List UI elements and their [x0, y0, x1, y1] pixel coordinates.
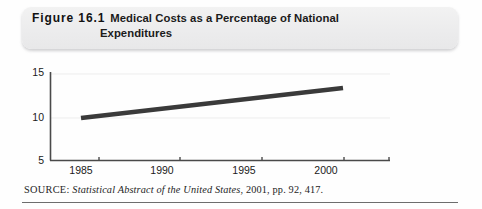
figure-caption-line-2: Expenditures [32, 26, 432, 41]
y-tick-label-10: 10 [20, 111, 44, 123]
source-label: SOURCE: [24, 184, 70, 195]
x-tick-label-1990: 1990 [142, 164, 182, 176]
chart-plot-area: 15 10 5 1985 1990 1995 2000 [0, 52, 482, 174]
x-tick-label-2000: 2000 [306, 164, 346, 176]
chart-gridlines [50, 74, 390, 118]
source-note: SOURCE: Statistical Abstract of the Unit… [24, 184, 323, 195]
x-tick-label-1995: 1995 [224, 164, 264, 176]
source-citation-detail: , 2001, pp. 92, 417. [240, 184, 323, 195]
figure-container: Figure 16.1Medical Costs as a Percentage… [0, 0, 482, 209]
y-tick-label-5: 5 [20, 154, 44, 166]
bottom-divider [22, 202, 458, 203]
figure-caption-line-1: Medical Costs as a Percentage of Nationa… [110, 12, 339, 24]
chart-x-ticks [99, 157, 389, 160]
y-tick-label-15: 15 [20, 66, 44, 78]
figure-number: Figure 16.1 [32, 11, 105, 25]
chart-series-line [81, 88, 343, 118]
figure-title: Figure 16.1Medical Costs as a Percentage… [32, 11, 432, 40]
x-tick-label-1985: 1985 [61, 164, 101, 176]
source-publication-title: Statistical Abstract of the United State… [72, 184, 240, 195]
line-chart-svg [0, 52, 482, 174]
